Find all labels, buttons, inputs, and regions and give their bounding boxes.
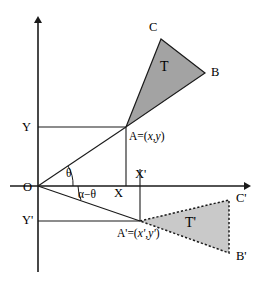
geometry-diagram: O Y X X' Y' θ α−θ C B T T' C' B' A=(x,y)… <box>0 0 265 282</box>
point-label-A-prime: A'=(x',y') <box>117 228 160 240</box>
point-label-A-prime-prefix: A'=( <box>117 227 138 239</box>
x-axis-arrow-icon <box>244 182 251 190</box>
point-label-A: A=(x,y) <box>129 131 165 143</box>
point-label-C-prime: C' <box>236 192 247 205</box>
triangle-T <box>126 39 205 127</box>
point-label-C: C <box>149 21 157 34</box>
point-label-A-prime-y: y' <box>148 227 156 239</box>
point-label-B-prime: B' <box>236 250 247 263</box>
ray-O-to-A <box>38 127 126 186</box>
origin-label: O <box>23 181 32 194</box>
point-label-A-suffix: ) <box>161 130 165 142</box>
y-axis-arrow-icon <box>34 16 42 23</box>
point-label-B: B <box>211 66 219 79</box>
axis-label-Y-prime: Y' <box>22 214 33 227</box>
angle-label-alpha-minus-theta: α−θ <box>78 189 96 201</box>
triangle-T-label: T <box>160 60 169 74</box>
axis-label-X-prime: X' <box>135 168 146 181</box>
axis-label-X: X <box>114 187 123 200</box>
angle-label-theta: θ <box>66 168 72 180</box>
triangle-T-prime-label: T' <box>185 216 196 230</box>
axis-label-Y: Y <box>22 121 31 134</box>
point-label-A-prefix: A=( <box>129 130 148 142</box>
point-label-A-prime-suffix: ) <box>156 227 160 239</box>
